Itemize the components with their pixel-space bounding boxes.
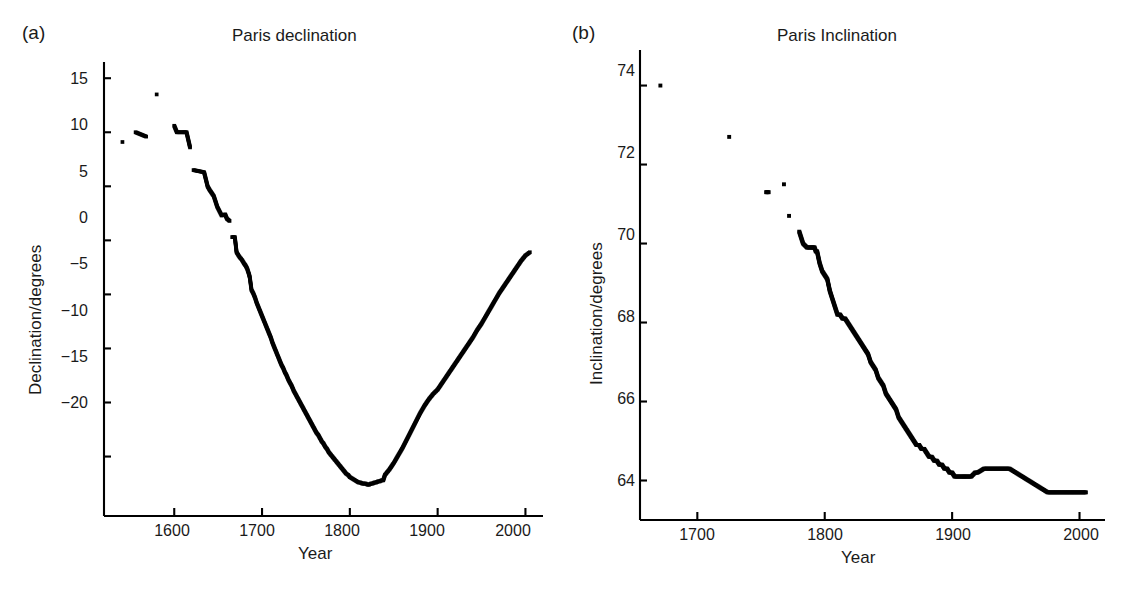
figure-paris-geomagnetic: (a) Paris declination Year Declination/d…: [0, 0, 1130, 605]
panel-a-declination: (a) Paris declination Year Declination/d…: [0, 0, 565, 605]
panel-b-inclination: (b) Paris Inclination Year Inclination/d…: [565, 0, 1130, 605]
panel-b-data-marks: [658, 84, 1087, 495]
panel-b-plot-area: [565, 0, 1130, 605]
panel-a-plot-area: [0, 0, 565, 605]
panel-a-data-marks: [121, 93, 532, 487]
panel-b-axes: [640, 50, 1105, 520]
